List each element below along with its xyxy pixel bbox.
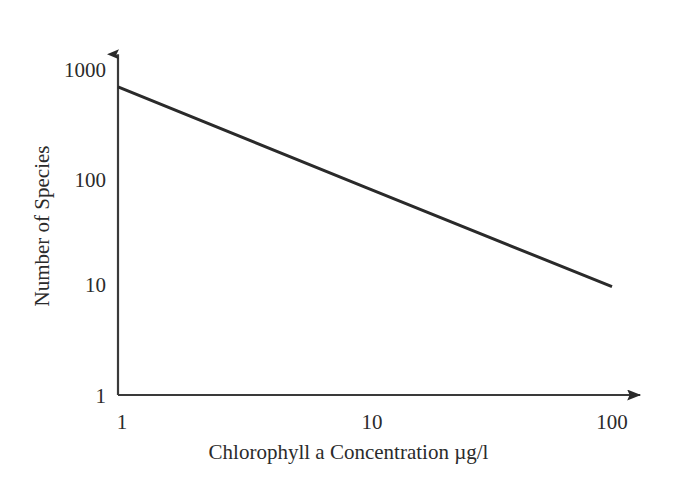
y-axis-title: Number of Species [30,96,55,356]
x-tick-label-100: 100 [596,412,628,433]
data-series-line [118,87,612,287]
x-tick-label-1: 1 [117,412,128,433]
x-tick-label-10: 10 [362,412,383,433]
x-axis-title: Chlorophyll a Concentration µg/l [0,440,697,465]
chart-figure: 1000 100 10 1 1 10 100 Chlorophyll a Con… [0,0,697,481]
y-tick-label-1: 1 [20,386,106,407]
y-tick-label-1000: 1000 [20,60,106,81]
